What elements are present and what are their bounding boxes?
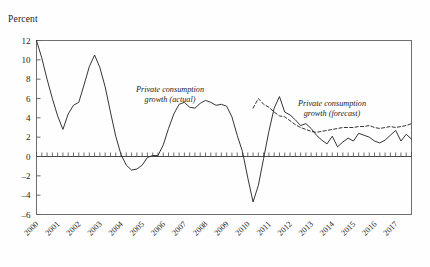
x-tick-label: 2008: [191, 220, 209, 238]
y-axis-tick-labels: 121086420–2–4–6: [21, 36, 32, 220]
x-tick-label: 2001: [43, 220, 61, 238]
x-tick-label: 2000: [22, 220, 40, 238]
y-axis-ticks: [37, 41, 41, 215]
y-tick-label: 6: [26, 94, 31, 104]
x-axis-tick-labels: 2000200120022003200420052006200720082009…: [22, 219, 399, 238]
x-tick-label: 2016: [360, 220, 378, 238]
figure-container: Percent 121086420–2–4–6 2000200120022003…: [0, 0, 430, 267]
svg-text:growth (forecast): growth (forecast): [304, 109, 361, 118]
x-tick-label: 2005: [128, 220, 146, 238]
x-tick-label: 2012: [276, 220, 294, 238]
x-tick-label: 2006: [149, 220, 167, 238]
x-tick-label: 2017: [382, 220, 400, 238]
y-tick-label: 12: [22, 36, 31, 46]
x-tick-label: 2010: [234, 220, 252, 238]
line-chart: 121086420–2–4–6 200020012002200320042005…: [0, 0, 430, 267]
forecast-series-label: Private consumption growth (forecast): [297, 99, 366, 118]
x-tick-label: 2009: [212, 220, 230, 238]
x-tick-label: 2013: [297, 220, 315, 238]
x-tick-label: 2007: [170, 220, 188, 238]
svg-text:Private consumption: Private consumption: [135, 85, 204, 94]
y-tick-label: 8: [26, 74, 31, 84]
y-tick-label: 2: [26, 132, 31, 142]
x-tick-label: 2014: [318, 219, 337, 238]
y-tick-label: –6: [21, 210, 32, 220]
x-tick-label: 2004: [107, 219, 126, 238]
y-tick-label: –2: [21, 171, 31, 181]
zero-line-ticks: [37, 153, 412, 157]
y-tick-label: –4: [21, 190, 32, 200]
svg-text:Private consumption: Private consumption: [297, 99, 366, 108]
y-tick-label: 0: [26, 152, 31, 162]
series-line-actual: [37, 41, 412, 202]
y-tick-label: 10: [22, 55, 32, 65]
actual-series-label: Private consumption growth (actual): [135, 85, 204, 104]
x-tick-label: 2011: [255, 220, 273, 238]
x-tick-label: 2002: [65, 220, 83, 238]
svg-text:growth (actual): growth (actual): [145, 95, 196, 104]
y-tick-label: 4: [26, 113, 31, 123]
x-tick-label: 2003: [86, 220, 104, 238]
x-tick-label: 2015: [339, 220, 357, 238]
